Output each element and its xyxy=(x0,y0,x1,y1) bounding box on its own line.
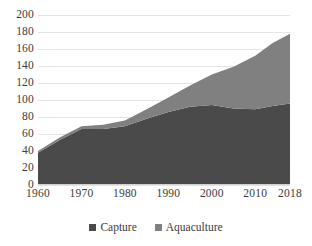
y-axis-tick-label: 100 xyxy=(16,94,34,106)
y-axis-tick-label: 180 xyxy=(16,26,34,38)
plot-area xyxy=(38,15,290,185)
x-axis: 1960197019801990200020102018 xyxy=(38,188,290,204)
y-axis-tick-label: 140 xyxy=(16,60,34,72)
legend-label: Aquaculture xyxy=(166,222,223,234)
stacked-area-chart: 020406080100120140160180200 196019701980… xyxy=(0,0,312,246)
x-axis-tick-label: 2000 xyxy=(200,188,224,200)
chart-legend: CaptureAquaculture xyxy=(0,222,312,234)
legend-swatch-icon xyxy=(89,224,96,231)
series-layer xyxy=(38,15,290,185)
x-axis-tick-label: 2010 xyxy=(243,188,267,200)
x-axis-tick-label: 1980 xyxy=(113,188,137,200)
y-axis-tick-label: 200 xyxy=(16,9,34,21)
y-axis-tick-label: 60 xyxy=(22,128,34,140)
legend-label: Capture xyxy=(100,222,136,234)
x-axis-tick-label: 1960 xyxy=(26,188,50,200)
y-axis-tick-label: 20 xyxy=(22,162,34,174)
legend-item[interactable]: Aquaculture xyxy=(155,222,223,234)
y-axis-tick-label: 160 xyxy=(16,43,34,55)
x-axis-tick-label: 1970 xyxy=(70,188,94,200)
x-axis-tick-label: 1990 xyxy=(156,188,180,200)
legend-item[interactable]: Capture xyxy=(89,222,136,234)
y-axis-tick-label: 120 xyxy=(16,77,34,89)
gridline xyxy=(38,185,290,186)
area-capture xyxy=(38,103,290,185)
y-axis-tick-label: 80 xyxy=(22,111,34,123)
x-axis-tick-label: 2018 xyxy=(278,188,302,200)
y-axis-tick-label: 40 xyxy=(22,145,34,157)
legend-swatch-icon xyxy=(155,224,162,231)
y-axis: 020406080100120140160180200 xyxy=(0,15,34,185)
x-axis-baseline xyxy=(38,184,290,185)
